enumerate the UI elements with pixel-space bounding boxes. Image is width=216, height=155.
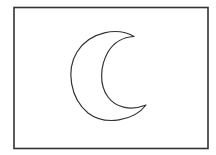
flag-border (14, 8, 208, 149)
flag-outline-figure (0, 0, 216, 155)
